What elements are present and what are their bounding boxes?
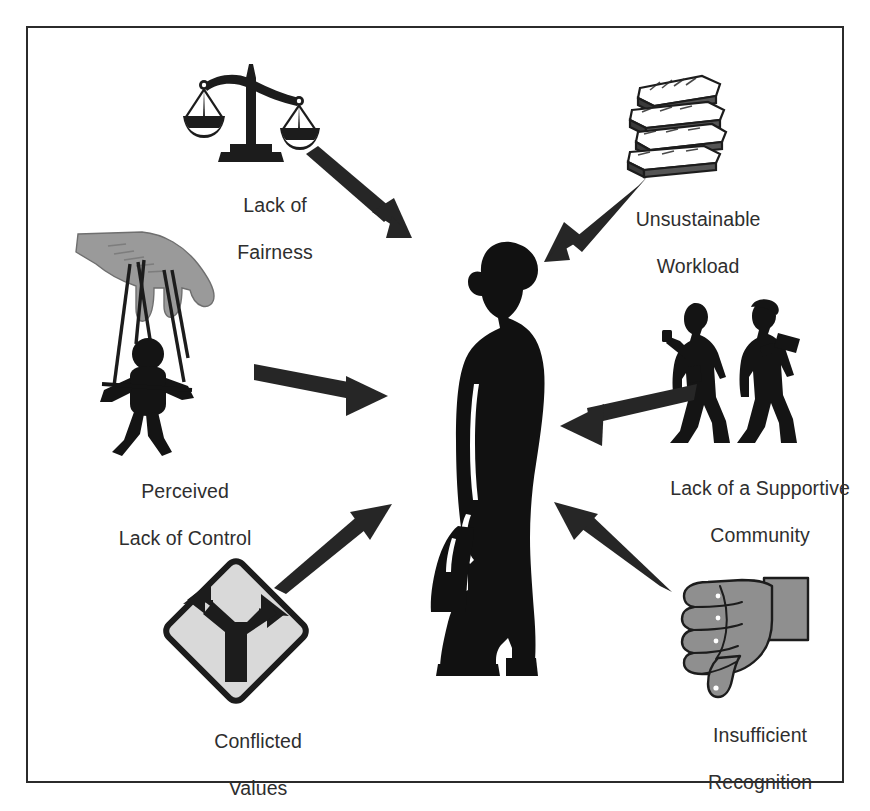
label-line-1: Lack of bbox=[243, 194, 307, 216]
label-line-2: Lack of Control bbox=[119, 527, 252, 549]
diagram-frame: Lack of Fairness bbox=[26, 26, 844, 783]
label-line-1: Conflicted bbox=[214, 730, 302, 752]
node-perceived-lack-of-control: Perceived Lack of Control bbox=[48, 226, 278, 575]
label-line-1: Perceived bbox=[141, 480, 229, 502]
stack-of-books-icon bbox=[616, 66, 736, 184]
label-line-1: Insufficient bbox=[713, 724, 807, 746]
arrow-lack-of-fairness-to-center bbox=[300, 146, 430, 256]
arrow-lack-of-supportive-community-to-center bbox=[556, 376, 701, 458]
label-line-2: Workload bbox=[657, 255, 740, 277]
node-label-conflicted-values: Conflicted Values bbox=[136, 706, 336, 811]
arrow-insufficient-recognition-to-center bbox=[542, 496, 682, 596]
label-line-2: Values bbox=[229, 777, 288, 799]
label-line-2: Recognition bbox=[708, 771, 812, 793]
arrow-perceived-lack-of-control-to-center bbox=[250, 354, 395, 434]
node-insufficient-recognition: Insufficient Recognition bbox=[628, 566, 848, 811]
arrow-conflicted-values-to-center bbox=[266, 500, 401, 595]
diagram-canvas: Lack of Fairness bbox=[0, 0, 870, 811]
label-line-2: Community bbox=[710, 524, 810, 546]
marionette-puppet-icon bbox=[68, 226, 258, 456]
thumbs-down-icon bbox=[658, 566, 818, 700]
label-line-1: Lack of a Supportive bbox=[670, 477, 850, 499]
arrow-unsustainable-workload-to-center bbox=[536, 170, 656, 275]
node-label-insufficient-recognition: Insufficient Recognition bbox=[628, 700, 848, 811]
